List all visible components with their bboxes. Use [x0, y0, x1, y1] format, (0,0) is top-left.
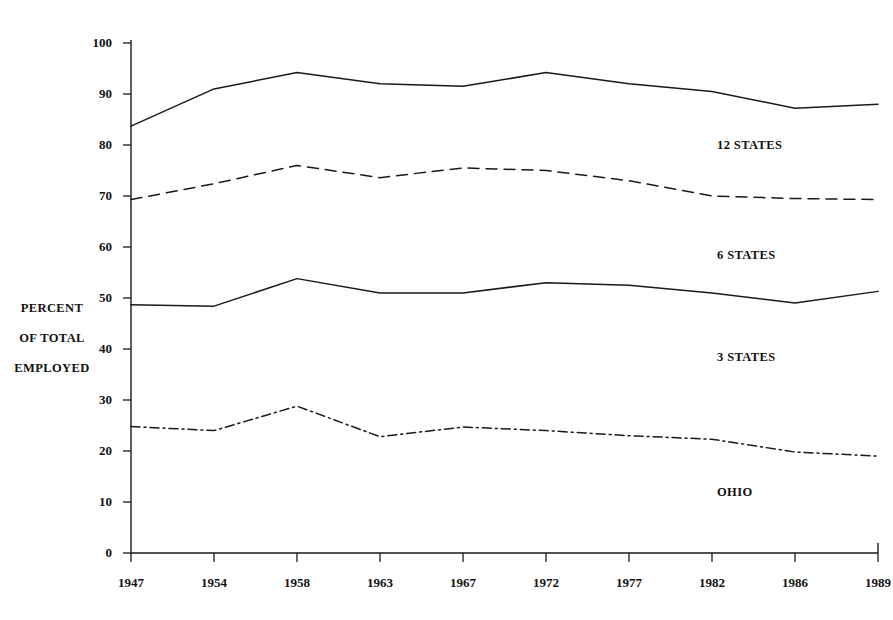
y-axis-tick-label: 30: [60, 392, 112, 408]
x-axis-tick-label: 1947: [118, 575, 144, 591]
y-axis-tick-label: 0: [60, 545, 112, 561]
x-axis-tick-label: 1958: [284, 575, 310, 591]
y-axis-tick-label: 90: [60, 86, 112, 102]
x-axis-tick-label: 1989: [865, 575, 891, 591]
x-axis-tick-label: 1967: [450, 575, 476, 591]
y-axis-title-line-3: EMPLOYED: [14, 361, 89, 376]
y-axis-tick-label: 100: [60, 35, 112, 51]
x-axis-tick-label: 1977: [616, 575, 642, 591]
series-line-ohio[interactable]: [131, 406, 878, 456]
x-axis-tick-label: 1986: [782, 575, 808, 591]
chart-plot-area: [0, 0, 893, 620]
y-axis-tick-label: 70: [60, 188, 112, 204]
series-label-12-states: 12 STATES: [717, 138, 782, 153]
y-axis-tick-label: 60: [60, 239, 112, 255]
series-label-ohio: OHIO: [717, 484, 753, 499]
x-axis-tick-label: 1963: [367, 575, 393, 591]
y-axis-title-line-1: PERCENT: [21, 301, 84, 316]
y-axis-tick-label: 20: [60, 443, 112, 459]
x-axis-tick-label: 1954: [201, 575, 227, 591]
y-axis-title-line-2: OF TOTAL: [19, 331, 85, 346]
chart-figure: 0102030405060708090100194719541958196319…: [0, 0, 893, 620]
series-line-6-states[interactable]: [131, 165, 878, 199]
y-axis-tick-label: 10: [60, 494, 112, 510]
y-axis-tick-label: 80: [60, 137, 112, 153]
x-axis-tick-label: 1982: [699, 575, 725, 591]
series-line-3-states[interactable]: [131, 279, 878, 307]
series-label-3-states: 3 STATES: [717, 349, 776, 364]
x-axis-tick-label: 1972: [533, 575, 559, 591]
series-label-6-states: 6 STATES: [717, 247, 776, 262]
series-line-12-states[interactable]: [131, 73, 878, 127]
